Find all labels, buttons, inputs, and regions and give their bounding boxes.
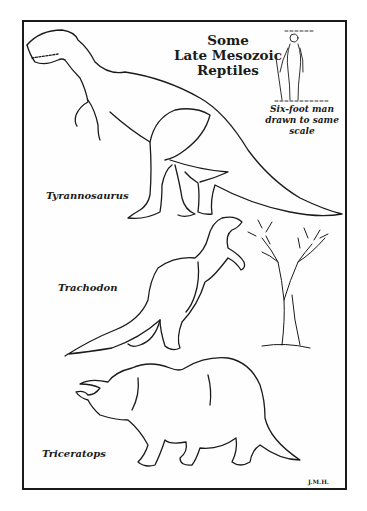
caption-line: Six-foot man (262, 104, 342, 115)
label-triceratops: Triceratops (42, 448, 106, 459)
title-line: Reptiles (158, 63, 298, 78)
label-trachodon: Trachodon (58, 282, 117, 293)
title-line: Late Mesozoic (158, 48, 298, 63)
title-line: Some (158, 33, 298, 48)
tree-drawing (248, 220, 328, 348)
label-tyrannosaurus: Tyrannosaurus (46, 190, 129, 201)
scale-caption: Six-foot man drawn to same scale (262, 104, 342, 137)
triceratops-drawing (76, 358, 300, 466)
caption-line: drawn to same (262, 115, 342, 126)
artist-signature: J.M.H. (308, 478, 329, 485)
illustration-title: Some Late Mesozoic Reptiles (158, 33, 298, 78)
caption-line: scale (262, 126, 342, 137)
